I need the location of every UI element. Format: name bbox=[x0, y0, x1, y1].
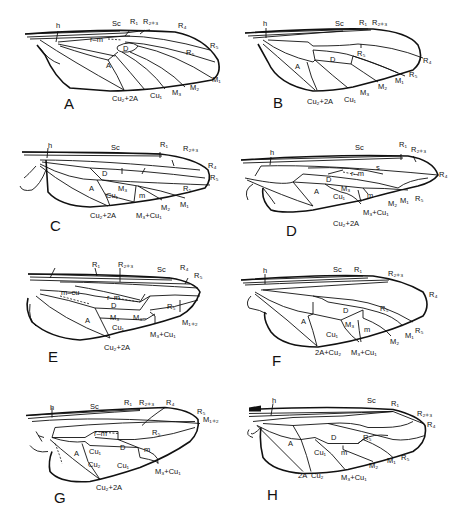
label-m1: M₁ bbox=[400, 197, 409, 205]
panel-letter-a: A bbox=[64, 96, 74, 112]
label-m2: M₂ bbox=[190, 84, 199, 92]
label-discal-cell: D bbox=[120, 444, 125, 452]
label-anal-cell: A bbox=[85, 317, 90, 325]
label-r4: R₄ bbox=[178, 22, 186, 30]
label-2a-cu2: 2A+Cu₂ bbox=[315, 349, 341, 357]
label-r5-cell: R₅ bbox=[183, 185, 191, 193]
wing-panel-b: h Sc R₁ R₂₊₃ R₅ R₄ D A R₅ M₁ M₂ M₃ Cu₁ C… bbox=[233, 0, 466, 129]
label-m1: M₁ bbox=[387, 457, 396, 465]
label-m-crossvein: m bbox=[139, 192, 145, 200]
wing-panel-e: R₁ R₂₊₃ Sc R₄ R₅ m–cu r–m D R₅ A M₃ M₃– … bbox=[0, 260, 233, 389]
label-m-crossvein: m bbox=[367, 192, 373, 200]
wing-d-venation bbox=[233, 130, 466, 259]
label-m1: M₁ bbox=[212, 76, 221, 84]
label-r1: R₁ bbox=[391, 400, 399, 408]
label-cu2-2a: Cu₂+2A bbox=[112, 95, 138, 103]
label-m3-cu1: M₃+Cu₁ bbox=[351, 349, 377, 357]
label-cu2-2a: Cu₂+2A bbox=[96, 484, 122, 492]
wing-panel-d: h Sc R₁ R₂₊₃ s R₄ r–m D M₃ m A Cu₁ R₅ M₁… bbox=[233, 130, 466, 259]
label-m3-cu1: M₃+Cu₁ bbox=[136, 212, 162, 220]
wing-panel-a: h Sc R₁ R₂₊₃ R₄ R₅ r–m D R₅ A M₁ M₂ M₃ C… bbox=[0, 0, 233, 129]
label-r4: R₄ bbox=[427, 421, 435, 429]
label-r5-cell: R₅ bbox=[357, 50, 365, 58]
label-cu2-2a: Cu₂+2A bbox=[307, 98, 333, 106]
label-r2-3: R₂₊₃ bbox=[372, 19, 387, 27]
label-r5-tip: R₅ bbox=[401, 454, 409, 462]
label-discal-cell: D bbox=[326, 176, 331, 184]
label-sc: Sc bbox=[90, 403, 99, 411]
label-r1: R₁ bbox=[124, 399, 132, 407]
label-m2: M₂ bbox=[390, 338, 399, 346]
label-discal-cell: D bbox=[331, 434, 336, 442]
label-sc: Sc bbox=[355, 144, 364, 152]
label-m3: M₃ bbox=[360, 89, 369, 97]
label-r4: R₄ bbox=[208, 162, 216, 170]
label-cu1: Cu₁ bbox=[326, 331, 338, 339]
label-anal-cell: A bbox=[314, 188, 319, 196]
label-m2: M₂ bbox=[378, 83, 387, 91]
label-r-m: r–m bbox=[94, 430, 107, 438]
label-r2-3: R₂₊₃ bbox=[417, 410, 432, 418]
wing-panel-h: h Sc R₁ R₂₊₃ R₄ D R₅ A Cu₁ m R₅ M₁ M₂ 2A… bbox=[233, 390, 466, 516]
label-cu1-lower: Cu₁ bbox=[117, 462, 129, 470]
label-anal-cell: A bbox=[106, 62, 111, 70]
label-m2: M₂ bbox=[369, 462, 378, 470]
label-m2: M₂ bbox=[388, 200, 397, 208]
label-r1: R₁ bbox=[354, 266, 362, 274]
label-discal-cell: D bbox=[102, 170, 107, 178]
label-m1: M₁ bbox=[395, 77, 404, 85]
label-anal-cell: A bbox=[89, 185, 94, 193]
label-m3-cu1: M₃+Cu₁ bbox=[341, 474, 367, 482]
label-r-m: r–m bbox=[351, 170, 364, 178]
label-sc: Sc bbox=[111, 144, 120, 152]
label-cu1: Cu₁ bbox=[344, 96, 356, 104]
label-discal-cell: D bbox=[330, 56, 335, 64]
label-anal-cell: A bbox=[288, 440, 293, 448]
label-cu1: Cu₁ bbox=[333, 193, 345, 201]
label-m-cu: m–cu bbox=[61, 289, 79, 297]
label-h: h bbox=[263, 20, 267, 28]
label-cu2: Cu₂ bbox=[88, 461, 101, 469]
label-cu1: Cu₁ bbox=[150, 92, 162, 100]
label-r1: R₁ bbox=[130, 18, 138, 26]
label-m-crossvein: m bbox=[144, 446, 150, 454]
panel-letter-b: B bbox=[273, 95, 283, 111]
label-r4: R₄ bbox=[423, 57, 431, 65]
panel-letter-c: C bbox=[50, 218, 61, 234]
label-m1-2: M₁₊₂ bbox=[182, 319, 198, 327]
label-h: h bbox=[270, 149, 274, 157]
label-r1: R₁ bbox=[160, 141, 168, 149]
label-m1: M₁ bbox=[180, 201, 189, 209]
label-cu1: Cu₁ bbox=[314, 449, 326, 457]
panel-letter-e: E bbox=[48, 349, 58, 365]
label-sc: Sc bbox=[333, 266, 342, 274]
panel-letter-f: F bbox=[272, 353, 281, 369]
label-m1-2: M₁₊₂ bbox=[203, 416, 219, 424]
label-m3-cu1: M₃+Cu₁ bbox=[155, 468, 181, 476]
label-r2-3: R₂₊₃ bbox=[139, 399, 154, 407]
label-r5-tip: R₅ bbox=[194, 272, 202, 280]
label-m3: M₃ bbox=[172, 89, 181, 97]
label-m3-crossvein: M₃– bbox=[133, 314, 146, 322]
label-m3-cell: M₃ bbox=[345, 321, 354, 329]
label-r5-tip: R₅ bbox=[210, 174, 218, 182]
wing-panel-g: h Sc R₁ R₂₊₃ R₄ R₅ M₁₊₂ r–m R₅ D m A Cu₁… bbox=[0, 390, 233, 516]
label-anal-cell: A bbox=[74, 450, 79, 458]
label-h: h bbox=[50, 404, 54, 412]
label-discal-cell: D bbox=[111, 302, 116, 310]
label-cu1: Cu₁ bbox=[106, 192, 118, 200]
label-cu2: Cu₂ bbox=[311, 472, 324, 480]
panel-letter-d: D bbox=[286, 223, 297, 239]
label-cu2-2a: Cu₂+2A bbox=[104, 344, 130, 352]
label-r5-cell: R₅ bbox=[186, 49, 194, 57]
label-r4: R₄ bbox=[166, 399, 174, 407]
label-h: h bbox=[56, 22, 60, 30]
label-r4: R₄ bbox=[180, 264, 188, 272]
panel-letter-h: H bbox=[267, 487, 278, 503]
label-h: h bbox=[48, 142, 52, 150]
label-sc: Sc bbox=[157, 266, 166, 274]
label-cu1: Cu₁ bbox=[112, 324, 124, 332]
label-r5-tip: R₅ bbox=[415, 327, 423, 335]
label-sc: Sc bbox=[112, 20, 121, 28]
label-m1: M₁ bbox=[405, 332, 414, 340]
